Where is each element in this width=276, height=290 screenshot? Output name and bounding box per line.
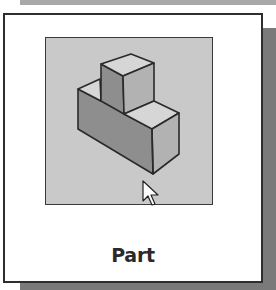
arrow-pointer-icon bbox=[0, 0, 276, 290]
